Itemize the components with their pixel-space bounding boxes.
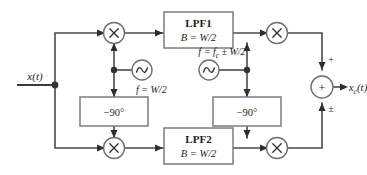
phase-shifter-left[interactable]: −90° — [80, 97, 148, 126]
lpf1-label: LPF1 — [185, 17, 211, 29]
diagram-canvas: LPF1 B = W/2 LPF2 B = W/2 −90° −90° f = … — [0, 0, 367, 175]
lpf2-bandwidth: B = W/2 — [181, 148, 217, 159]
arrow-osc-into-right-phase — [244, 89, 251, 97]
summer-plus-symbol: + — [319, 81, 326, 95]
block-diagram: LPF1 B = W/2 LPF2 B = W/2 −90° −90° f = … — [0, 0, 367, 175]
mult-bottom-right[interactable] — [267, 138, 288, 159]
mult-bottom-left[interactable] — [104, 138, 125, 159]
wire-input-to-top-mult — [55, 33, 105, 85]
input-signal-label: x(t) — [26, 70, 43, 83]
mult-top-right[interactable] — [267, 23, 288, 44]
arrow-output — [340, 84, 348, 91]
phase-shifter-right[interactable]: −90° — [213, 97, 281, 126]
oscillator-left[interactable] — [132, 60, 152, 80]
arrow-into-summer-bottom — [319, 103, 326, 111]
oscillator-left-frequency: f = W/2 — [136, 84, 167, 95]
arrow-into-lpf1 — [155, 30, 163, 37]
output-signal-label: xc(t) — [348, 81, 367, 96]
arrow-into-summer-top — [319, 62, 326, 70]
wire-topright-to-summer — [287, 33, 322, 70]
oscillator-right-frequency: f = fc ± W/2 — [198, 46, 245, 60]
lpf2-block[interactable]: LPF2 B = W/2 — [164, 128, 233, 164]
arrow-osc-into-top-mult — [111, 43, 118, 51]
arrow-right-phase-into-mult — [244, 130, 251, 138]
arrow-osc-into-left-phase — [111, 89, 118, 97]
carrier-freq-suffix: ± W/2 — [219, 46, 246, 57]
phase-shifter-left-label: −90° — [104, 107, 125, 118]
summer[interactable]: + — [311, 76, 333, 98]
carrier-freq-prefix: f = f — [198, 46, 217, 57]
summer-bottom-sign: ± — [328, 103, 334, 114]
mult-top-left[interactable] — [104, 23, 125, 44]
lpf2-label: LPF2 — [185, 133, 212, 145]
summer-top-sign: + — [328, 54, 334, 65]
phase-shifter-right-label: −90° — [237, 107, 258, 118]
arrow-into-lpf2 — [155, 145, 163, 152]
junction-input-split — [52, 82, 59, 89]
wire-bottomright-to-summer — [287, 103, 322, 148]
output-suffix: (t) — [357, 81, 367, 94]
lpf1-block[interactable]: LPF1 B = W/2 — [164, 12, 233, 48]
oscillator-right[interactable] — [199, 60, 219, 80]
junction-left-oscillator — [111, 67, 117, 73]
junction-right-oscillator — [244, 67, 250, 73]
lpf1-bandwidth: B = W/2 — [181, 32, 217, 43]
